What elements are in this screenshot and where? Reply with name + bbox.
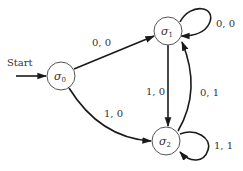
edge-s2-s1 — [178, 42, 191, 131]
edge-s0-s1 — [74, 36, 154, 69]
start-label: Start — [7, 57, 33, 68]
edge-label-s2-s2: 1, 1 — [214, 140, 233, 151]
edge-s1-s1 — [180, 9, 211, 36]
edge-label-s1-s2: 1, 0 — [146, 86, 165, 97]
state-diagram: Start 0, 0 1, 0 0, 0 1, 0 0, 1 1, 1 σ0 σ… — [0, 0, 243, 171]
state-s0: σ0 — [47, 62, 75, 90]
edge-label-s1-s1: 0, 0 — [216, 18, 235, 29]
edge-label-s2-s1: 0, 1 — [200, 87, 219, 98]
state-s1: σ1 — [154, 17, 182, 45]
state-s2: σ2 — [152, 127, 180, 155]
edge-s2-s2 — [180, 132, 209, 160]
edge-label-s0-s1: 0, 0 — [92, 37, 111, 48]
edge-label-s0-s2: 1, 0 — [104, 108, 123, 119]
